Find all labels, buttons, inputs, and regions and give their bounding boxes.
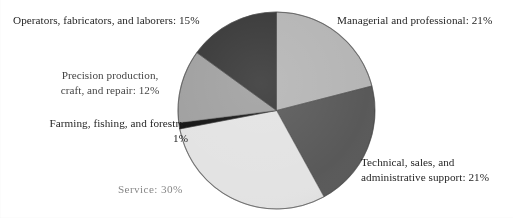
pie-outline: [178, 12, 375, 209]
slice-label-farming-line1: Farming, fishing, and forestry:: [10, 116, 188, 131]
slice-label-managerial: Managerial and professional: 21%: [337, 13, 492, 28]
slice-label-service-text: Service: 30%: [118, 182, 183, 197]
pie-chart-svg: Managerial and professional: 21%Technica…: [177, 10, 376, 211]
slice-label-operators-text: Operators, fabricators, and laborers: 15…: [13, 13, 200, 28]
slice-label-precision-line2: craft, and repair: 12%: [36, 83, 184, 98]
slice-label-operators: Operators, fabricators, and laborers: 15…: [13, 13, 200, 28]
slice-label-precision-line1: Precision production,: [36, 68, 184, 83]
slice-label-service: Service: 30%: [118, 182, 183, 197]
pie-chart-page: Managerial and professional: 21%Technica…: [0, 0, 513, 218]
slice-label-farming: Farming, fishing, and forestry: 1%: [10, 116, 188, 145]
slice-label-technical: Technical, sales, and administrative sup…: [361, 155, 489, 184]
slice-label-technical-line1: Technical, sales, and: [361, 155, 489, 170]
slice-label-managerial-text: Managerial and professional: 21%: [337, 13, 492, 28]
slice-label-precision: Precision production, craft, and repair:…: [36, 68, 184, 97]
pie-chart-figure: Managerial and professional: 21%Technica…: [177, 10, 376, 211]
slice-label-technical-line2: administrative support: 21%: [361, 170, 489, 185]
slice-label-farming-line2: 1%: [10, 131, 188, 146]
